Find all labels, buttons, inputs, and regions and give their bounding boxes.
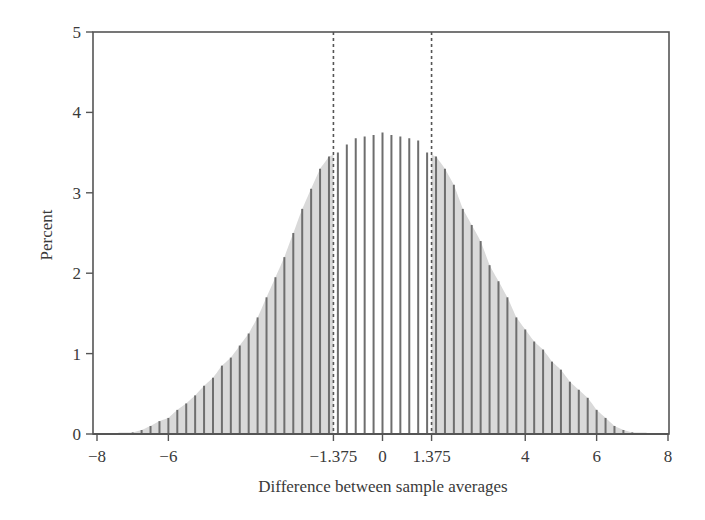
x-tick-label: 8 xyxy=(664,447,673,466)
y-tick-label: 4 xyxy=(73,103,82,122)
x-tick-label: 0 xyxy=(378,447,387,466)
x-axis-title: Difference between sample averages xyxy=(258,477,507,496)
x-tick-label: 6 xyxy=(592,447,601,466)
left-tail-shading xyxy=(118,155,333,434)
x-tick-label: 4 xyxy=(521,447,530,466)
histogram-chart: 012345 −8−6−1.37501.375468 Difference be… xyxy=(0,0,705,520)
x-tick-label: −6 xyxy=(159,447,177,466)
x-tick-label: 1.375 xyxy=(412,447,450,466)
plot-frame xyxy=(93,32,669,434)
x-tick-label: −8 xyxy=(88,447,106,466)
plot-border xyxy=(93,32,669,434)
right-tail-shading xyxy=(432,155,647,434)
y-tick-label: 1 xyxy=(73,345,82,364)
y-tick-label: 0 xyxy=(73,425,82,444)
x-axis-ticks: −8−6−1.37501.375468 xyxy=(88,434,672,466)
bars xyxy=(115,133,650,435)
x-tick-label: −1.375 xyxy=(310,447,358,466)
y-axis-ticks: 012345 xyxy=(73,23,94,444)
y-tick-label: 3 xyxy=(73,184,82,203)
y-tick-label: 2 xyxy=(73,264,82,283)
y-tick-label: 5 xyxy=(73,23,82,42)
y-axis-title: Percent xyxy=(37,209,56,260)
